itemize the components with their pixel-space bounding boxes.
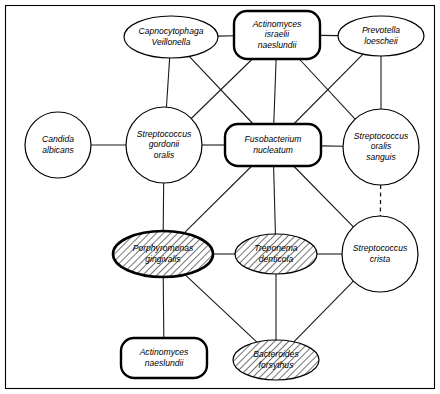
node-label-bacteroides-forsythus: forsythus — [259, 360, 295, 370]
node-label-streptococcus-gordonii-oralis: gordonii — [149, 139, 181, 149]
edge-actinomyces-israelii-fusobacterium — [274, 59, 276, 124]
node-fusobacterium-nucleatum[interactable]: Fusobacteriumnucleatum — [225, 124, 321, 166]
node-label-streptococcus-crista: crista — [370, 254, 391, 264]
node-label-streptococcus-crista: Streptococcus — [353, 243, 408, 253]
node-label-prevotella-loescheii: loescheii — [364, 36, 399, 46]
node-label-prevotella-loescheii: Prevotella — [362, 25, 400, 35]
node-streptococcus-gordonii-oralis[interactable]: Streptococcusgordoniioralis — [126, 107, 202, 183]
node-label-porphyromonas-gingivalis: Porphyromonas — [133, 243, 194, 253]
node-label-streptococcus-gordonii-oralis: Streptococcus — [137, 129, 192, 139]
node-candida-albicans[interactable]: Candidaalbicans — [25, 112, 91, 178]
node-label-treponema-denticola: denticola — [259, 254, 294, 264]
node-treponema-denticola[interactable]: Treponemadenticola — [235, 234, 317, 274]
node-label-treponema-denticola: Treponema — [254, 243, 298, 253]
node-label-streptococcus-oralis-sanguis: oralis — [371, 141, 392, 151]
node-label-fusobacterium-nucleatum: Fusobacterium — [245, 134, 302, 144]
node-label-candida-albicans: albicans — [42, 145, 74, 155]
nodes-layer: CapnocytophagaVeillonellaActinomycesisra… — [25, 11, 424, 380]
edge-strep-crista-bacteroides — [294, 281, 354, 342]
node-label-capnocytophaga-veillonella: Veillonella — [152, 37, 191, 47]
node-label-candida-albicans: Candida — [42, 134, 74, 144]
bacterial-network-diagram: CapnocytophagaVeillonellaActinomycesisra… — [0, 0, 440, 394]
edge-porphyromonas-actinomyces-naeslundii — [163, 277, 164, 338]
node-label-streptococcus-gordonii-oralis: oralis — [154, 150, 175, 160]
edge-fusobacterium-porphyromonas — [184, 166, 252, 233]
node-capnocytophaga-veillonella[interactable]: CapnocytophagaVeillonella — [124, 16, 218, 58]
edge-porphyromonas-bacteroides — [185, 275, 257, 342]
node-label-fusobacterium-nucleatum: nucleatum — [253, 145, 293, 155]
node-label-bacteroides-forsythus: Bacteroides — [253, 349, 299, 359]
node-label-actinomyces-israelii-naeslundii: Actinomyces — [252, 19, 302, 29]
edges-layer — [91, 35, 381, 342]
node-porphyromonas-gingivalis[interactable]: Porphyromonasgingivalis — [113, 231, 213, 277]
node-label-actinomyces-israelii-naeslundii: israelii — [265, 29, 290, 39]
node-prevotella-loescheii[interactable]: Prevotellaloescheii — [338, 16, 424, 56]
node-label-capnocytophaga-veillonella: Capnocytophaga — [139, 26, 204, 36]
node-label-actinomyces-naeslundii: naeslundii — [145, 358, 185, 368]
node-bacteroides-forsythus[interactable]: Bacteroidesforsythus — [233, 340, 319, 380]
node-actinomyces-naeslundii[interactable]: Actinomycesnaeslundii — [121, 338, 207, 378]
edge-fusobacterium-strep-crista — [294, 166, 354, 227]
node-actinomyces-israelii-naeslundii[interactable]: Actinomycesisraeliinaeslundii — [234, 11, 320, 59]
node-label-streptococcus-oralis-sanguis: Streptococcus — [354, 131, 409, 141]
node-label-actinomyces-israelii-naeslundii: naeslundii — [258, 40, 298, 50]
edge-fusobacterium-treponema — [274, 166, 276, 234]
edge-capnocytophaga-strep-gordonii — [166, 58, 169, 107]
diagram-canvas: CapnocytophagaVeillonellaActinomycesisra… — [0, 0, 440, 394]
edge-capnocytophaga-fusobacterium — [189, 56, 253, 124]
node-streptococcus-oralis-sanguis[interactable]: Streptococcusoralissanguis — [343, 109, 419, 185]
node-streptococcus-crista[interactable]: Streptococcuscrista — [342, 216, 418, 292]
node-label-streptococcus-oralis-sanguis: sanguis — [366, 152, 396, 162]
node-label-porphyromonas-gingivalis: gingivalis — [145, 254, 181, 264]
node-label-actinomyces-naeslundii: Actinomyces — [139, 347, 189, 357]
